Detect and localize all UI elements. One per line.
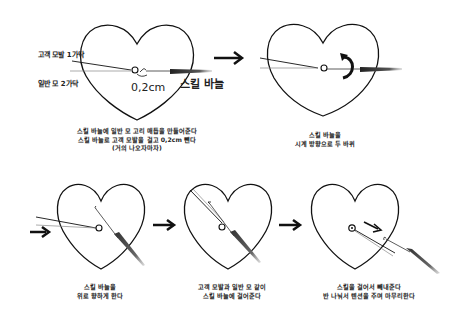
caption-line: 시계 방향으로 두 바퀴	[295, 140, 355, 149]
needle-label: 스킬 바늘	[180, 75, 224, 91]
knot-loop	[219, 224, 225, 230]
step-arrow-icon	[279, 220, 300, 230]
hair-strand-b	[355, 231, 393, 256]
skill-needle	[170, 69, 212, 74]
hook-tip	[95, 206, 96, 209]
caption-line: (거의 나오자마자)	[77, 144, 198, 153]
step-5-diagram	[311, 184, 440, 274]
skill-needle	[114, 232, 145, 266]
skill-needle	[360, 67, 402, 72]
step-2-diagram	[260, 25, 402, 116]
knot-loop	[321, 65, 327, 71]
needle-shaft	[210, 204, 234, 236]
customer-hair-label: 고객 모발 1가닥	[38, 49, 84, 59]
caption-line: 스킬 바늘에 걸어준다	[198, 292, 267, 301]
customer-hair-strand	[72, 61, 131, 70]
diagram-canvas	[0, 0, 466, 319]
caption-line: 스킬을 걸어서 빼내준다	[323, 283, 416, 292]
caption-line: 반 나눠서 텐션을 주며 마무리한다	[323, 292, 416, 301]
customer-hair-strand	[190, 190, 222, 223]
step-5-caption: 스킬을 걸어서 빼내준다 반 나눠서 텐션을 주며 마무리한다	[323, 283, 416, 300]
hook-tip	[208, 202, 211, 204]
needle-shaft	[96, 209, 118, 238]
hook-tip	[384, 237, 386, 240]
knot-loop	[132, 67, 138, 73]
step-4-diagram	[184, 184, 271, 269]
caption-line: 스킬 바늘을	[77, 283, 123, 292]
caption-line: 위로 향하게 한다	[77, 292, 123, 301]
step-3-caption: 스킬 바늘을 위로 향하게 한다	[77, 283, 123, 300]
measure-bracket	[137, 74, 147, 76]
skill-needle	[230, 230, 261, 263]
caption-line: 스킬 바늘에 일반 모 고리 매듭을 만들어준다	[77, 127, 198, 136]
step-1-diagram	[70, 25, 212, 120]
step-2-caption: 스킬 바늘을 시계 방향으로 두 바퀴	[295, 131, 355, 148]
caption-line: 고객 모발과 일반 모 같이	[198, 283, 267, 292]
step-arrow-icon	[214, 52, 242, 64]
step-3-diagram	[36, 184, 145, 269]
regular-hair-label: 일반 모 2가닥	[38, 78, 78, 88]
clockwise-rotate-icon	[340, 53, 353, 78]
step-arrow-icon	[30, 227, 49, 237]
step-4-caption: 고객 모발과 일반 모 같이 스킬 바늘에 걸어준다	[198, 283, 267, 300]
measurement-label: 0,2cm	[131, 81, 165, 94]
caption-line: 스킬 바늘로 고객 모발을 걸고 0,2cm 뺀다	[77, 136, 198, 145]
pull-arrow-icon	[364, 222, 381, 232]
hook-tip	[140, 69, 146, 73]
skill-needle	[406, 248, 440, 274]
knot-loop	[96, 225, 102, 231]
step-1-caption: 스킬 바늘에 일반 모 고리 매듭을 만들어준다 스킬 바늘로 고객 모발을 걸…	[77, 127, 198, 153]
step-arrow-icon	[153, 220, 174, 230]
hair-strand-a	[355, 230, 395, 253]
caption-line: 스킬 바늘을	[295, 131, 355, 140]
